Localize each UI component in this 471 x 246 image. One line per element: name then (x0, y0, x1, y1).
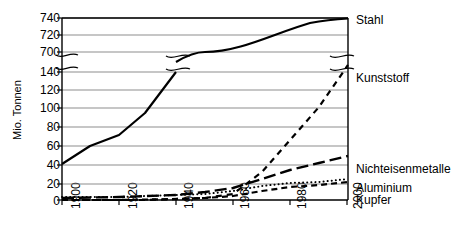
axis-break-left (56, 54, 78, 70)
axis-break-squiggle-upper-left (56, 54, 78, 57)
series-line-kunststoff (62, 65, 348, 200)
axis-break-right (330, 55, 354, 71)
axis-break-squiggle-lower-middle (166, 68, 190, 71)
chart-plot-area (0, 0, 471, 246)
series-line-kupfer (62, 179, 348, 197)
axis-break-squiggle-lower-left (56, 67, 78, 70)
series-line-nichteisenmetalle (62, 156, 348, 198)
plot-frame (62, 18, 348, 200)
axis-break-squiggle-lower-right (330, 68, 354, 71)
grid-lines (62, 18, 348, 184)
y-tick-marks (57, 18, 62, 200)
series-line-stahl-upper (176, 19, 348, 63)
axis-break-squiggle-upper-right (330, 55, 354, 58)
chart-figure: Mio. Tonnen 740 720 700 140 120 100 80 6… (0, 0, 471, 246)
series-line-stahl-lower (62, 72, 176, 164)
